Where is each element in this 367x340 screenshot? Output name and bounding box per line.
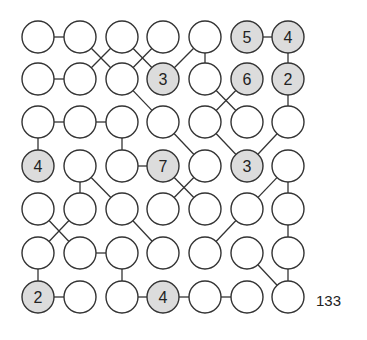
empty-node[interactable] xyxy=(231,106,263,138)
empty-node[interactable] xyxy=(106,150,138,182)
empty-node[interactable] xyxy=(106,193,138,225)
node-circle[interactable] xyxy=(231,237,263,269)
empty-node[interactable] xyxy=(147,193,179,225)
empty-node[interactable] xyxy=(189,106,221,138)
empty-node[interactable] xyxy=(22,193,54,225)
empty-node[interactable] xyxy=(64,237,96,269)
empty-node[interactable] xyxy=(106,237,138,269)
node-circle[interactable] xyxy=(64,237,96,269)
clue-number: 2 xyxy=(284,71,293,88)
clue-node[interactable]: 6 xyxy=(231,63,263,95)
node-circle[interactable] xyxy=(272,150,304,182)
node-circle[interactable] xyxy=(22,193,54,225)
empty-node[interactable] xyxy=(64,106,96,138)
clue-number: 4 xyxy=(284,29,293,46)
node-circle[interactable] xyxy=(272,237,304,269)
clue-number: 3 xyxy=(243,158,252,175)
clue-node[interactable]: 5 xyxy=(231,21,263,53)
edge-line xyxy=(91,177,111,197)
node-circle[interactable] xyxy=(189,281,221,313)
empty-node[interactable] xyxy=(64,150,96,182)
node-circle[interactable] xyxy=(22,63,54,95)
node-circle[interactable] xyxy=(106,150,138,182)
empty-node[interactable] xyxy=(22,237,54,269)
node-circle[interactable] xyxy=(22,21,54,53)
empty-node[interactable] xyxy=(147,21,179,53)
node-circle[interactable] xyxy=(189,193,221,225)
empty-node[interactable] xyxy=(231,193,263,225)
node-circle[interactable] xyxy=(106,193,138,225)
empty-node[interactable] xyxy=(189,193,221,225)
edge-line xyxy=(174,48,193,67)
empty-node[interactable] xyxy=(189,63,221,95)
node-circle[interactable] xyxy=(189,106,221,138)
node-circle[interactable] xyxy=(106,21,138,53)
clue-number: 4 xyxy=(159,289,168,306)
node-circle[interactable] xyxy=(22,237,54,269)
puzzle-board: 5436247324 xyxy=(0,0,367,340)
clue-node[interactable]: 4 xyxy=(147,281,179,313)
clue-node[interactable]: 3 xyxy=(147,63,179,95)
empty-node[interactable] xyxy=(231,281,263,313)
node-circle[interactable] xyxy=(64,106,96,138)
empty-node[interactable] xyxy=(189,281,221,313)
clue-number: 6 xyxy=(243,71,252,88)
empty-node[interactable] xyxy=(106,21,138,53)
edge-line xyxy=(174,134,194,155)
node-circle[interactable] xyxy=(64,150,96,182)
empty-node[interactable] xyxy=(106,281,138,313)
empty-node[interactable] xyxy=(272,150,304,182)
empty-node[interactable] xyxy=(64,193,96,225)
node-circle[interactable] xyxy=(106,237,138,269)
empty-node[interactable] xyxy=(189,150,221,182)
empty-node[interactable] xyxy=(64,21,96,53)
node-circle[interactable] xyxy=(231,106,263,138)
clue-node[interactable]: 2 xyxy=(272,63,304,95)
edge-line xyxy=(258,178,277,198)
node-circle[interactable] xyxy=(64,63,96,95)
edge-line xyxy=(133,221,152,242)
node-circle[interactable] xyxy=(272,281,304,313)
empty-node[interactable] xyxy=(22,106,54,138)
empty-node[interactable] xyxy=(272,193,304,225)
node-circle[interactable] xyxy=(64,21,96,53)
empty-node[interactable] xyxy=(272,106,304,138)
edge-line xyxy=(216,221,236,242)
node-circle[interactable] xyxy=(106,281,138,313)
node-circle[interactable] xyxy=(147,21,179,53)
clue-node[interactable]: 2 xyxy=(22,281,54,313)
node-circle[interactable] xyxy=(22,106,54,138)
node-circle[interactable] xyxy=(147,106,179,138)
empty-node[interactable] xyxy=(22,21,54,53)
empty-node[interactable] xyxy=(147,237,179,269)
empty-node[interactable] xyxy=(272,237,304,269)
empty-node[interactable] xyxy=(106,106,138,138)
node-circle[interactable] xyxy=(106,63,138,95)
node-circle[interactable] xyxy=(272,193,304,225)
clue-node[interactable]: 3 xyxy=(231,150,263,182)
node-circle[interactable] xyxy=(64,193,96,225)
node-circle[interactable] xyxy=(189,21,221,53)
empty-node[interactable] xyxy=(272,281,304,313)
node-circle[interactable] xyxy=(189,63,221,95)
empty-node[interactable] xyxy=(22,63,54,95)
clue-node[interactable]: 4 xyxy=(22,150,54,182)
node-circle[interactable] xyxy=(189,237,221,269)
node-circle[interactable] xyxy=(272,106,304,138)
node-circle[interactable] xyxy=(64,281,96,313)
node-circle[interactable] xyxy=(147,237,179,269)
node-circle[interactable] xyxy=(106,106,138,138)
node-circle[interactable] xyxy=(147,193,179,225)
empty-node[interactable] xyxy=(189,237,221,269)
node-circle[interactable] xyxy=(189,150,221,182)
empty-node[interactable] xyxy=(64,63,96,95)
empty-node[interactable] xyxy=(106,63,138,95)
node-circle[interactable] xyxy=(231,281,263,313)
clue-node[interactable]: 7 xyxy=(147,150,179,182)
empty-node[interactable] xyxy=(147,106,179,138)
clue-node[interactable]: 4 xyxy=(272,21,304,53)
empty-node[interactable] xyxy=(231,237,263,269)
node-circle[interactable] xyxy=(231,193,263,225)
empty-node[interactable] xyxy=(64,281,96,313)
empty-node[interactable] xyxy=(189,21,221,53)
